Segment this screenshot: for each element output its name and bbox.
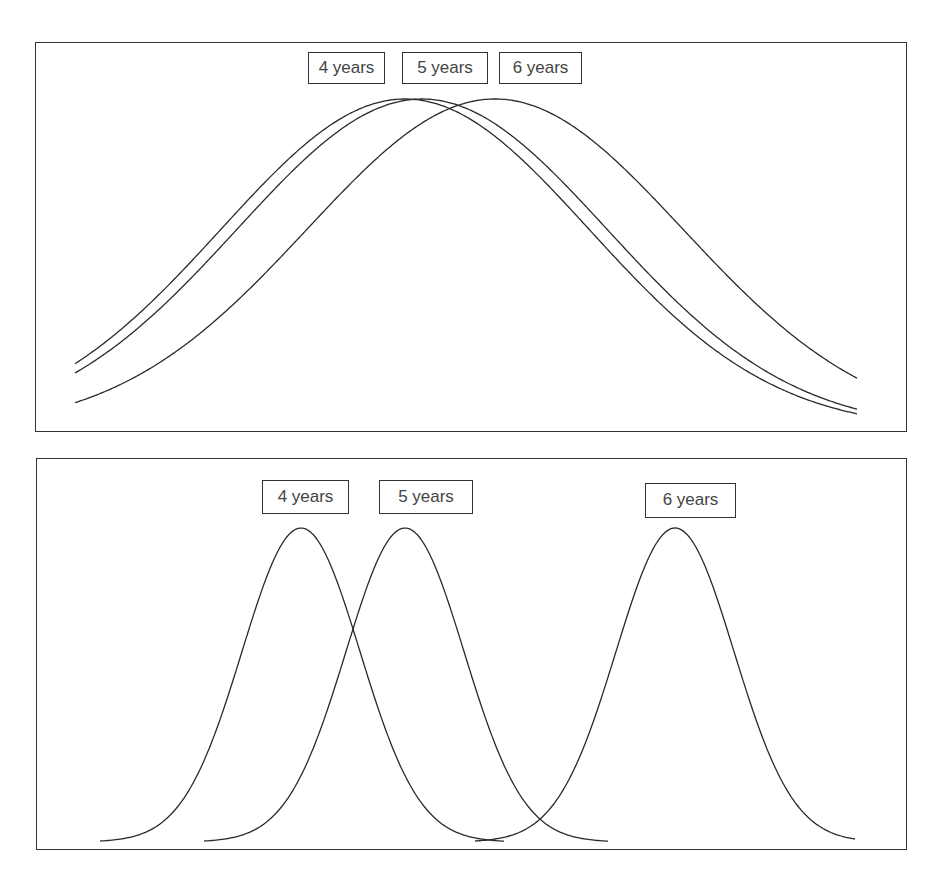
bottom-label-5-years: 5 years [379,480,473,514]
top-chart-panel [35,42,907,432]
top-label-5-years: 5 years [402,52,488,84]
bottom-label-4-years: 4 years [262,480,349,514]
bottom-label-6-years: 6 years [645,483,736,518]
top-label-4-years: 4 years [308,52,385,84]
bottom-chart-panel [36,458,907,850]
top-label-6-years: 6 years [499,52,582,84]
